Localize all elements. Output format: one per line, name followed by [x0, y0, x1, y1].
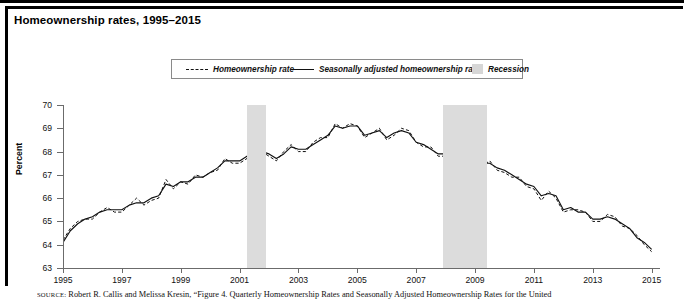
y-tick [57, 175, 63, 176]
x-tick [416, 268, 417, 273]
x-tick [240, 268, 241, 273]
y-axis-labels: 7069686766656463 [26, 0, 52, 304]
series-lines [63, 105, 659, 268]
y-tick-label: 70 [26, 100, 52, 110]
x-tick-label: 2015 [642, 275, 661, 285]
x-tick-label: 2011 [525, 275, 543, 285]
y-tick [57, 128, 63, 129]
x-tick [652, 268, 653, 273]
legend-label: Homeownership rate [213, 65, 294, 74]
y-tick [57, 221, 63, 222]
y-tick-label: 68 [26, 147, 52, 157]
x-tick-label: 2013 [583, 275, 602, 285]
y-axis-line [63, 105, 64, 269]
y-axis-title: Percent [14, 143, 24, 175]
x-tick-label: 1995 [53, 275, 72, 285]
source-text: Robert R. Callis and Melissa Kresin, “Fi… [66, 290, 551, 299]
legend-swatch-solid-icon [292, 69, 314, 70]
legend-item-2: Seasonally adjusted homeownership rate [292, 65, 480, 74]
figure-panel: Homeownership rates, 1995–2015 Homeowner… [0, 0, 684, 304]
recession-band-2 [443, 105, 487, 268]
x-tick [534, 268, 535, 273]
series-line-1 [63, 124, 652, 252]
legend-item-1: Homeownership rate [186, 65, 294, 74]
y-tick [57, 152, 63, 153]
chart-legend: Homeownership rateSeasonally adjusted ho… [171, 59, 523, 79]
legend-label: Seasonally adjusted homeownership rate [319, 65, 480, 74]
y-tick-label: 67 [26, 170, 52, 180]
y-tick-label: 65 [26, 216, 52, 226]
x-tick-label: 2007 [407, 275, 426, 285]
source-note: SOURCE: Robert R. Callis and Melissa Kre… [37, 290, 677, 299]
x-tick-label: 2009 [465, 275, 484, 285]
x-tick-label: 1999 [171, 275, 190, 285]
y-tick [57, 105, 63, 106]
x-axis-line [63, 268, 660, 269]
x-tick [475, 268, 476, 273]
x-tick-label: 2005 [348, 275, 367, 285]
x-tick-label: 2001 [230, 275, 249, 285]
legend-item-3: Recession [472, 64, 529, 74]
frame-top-border [0, 0, 684, 3]
y-tick-label: 63 [26, 263, 52, 273]
y-tick [57, 198, 63, 199]
x-tick [593, 268, 594, 273]
y-tick [57, 245, 63, 246]
source-prefix: SOURCE: [37, 291, 66, 298]
y-tick-label: 66 [26, 193, 52, 203]
y-tick-label: 64 [26, 240, 52, 250]
x-tick [122, 268, 123, 273]
plot-area [63, 105, 659, 268]
legend-label: Recession [488, 65, 529, 74]
x-tick [63, 268, 64, 273]
x-tick-label: 1997 [112, 275, 131, 285]
legend-swatch-dashed-icon [186, 69, 208, 70]
series-line-2 [63, 126, 652, 249]
legend-swatch-swatch-icon [472, 64, 483, 74]
x-tick [357, 268, 358, 273]
recession-band-1 [247, 105, 266, 268]
y-tick-label: 69 [26, 123, 52, 133]
x-tick [181, 268, 182, 273]
x-tick-label: 2003 [289, 275, 308, 285]
x-tick [298, 268, 299, 273]
